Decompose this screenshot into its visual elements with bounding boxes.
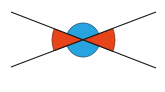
vertical-angles-diagram xyxy=(0,0,165,92)
